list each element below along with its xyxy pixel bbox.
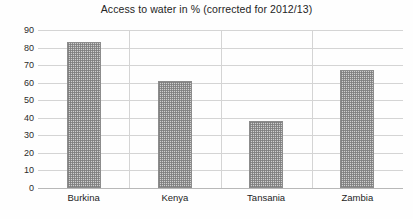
- bar-burkina: [67, 42, 101, 188]
- y-axis-tick-label: 90: [0, 26, 34, 35]
- y-axis-tick-label: 30: [0, 131, 34, 140]
- y-axis-tick-label: 80: [0, 43, 34, 52]
- bar-tansania: [249, 121, 283, 188]
- axis-baseline: [38, 188, 403, 189]
- category-separator: [312, 30, 313, 188]
- x-axis-tick-label: Tansania: [247, 193, 285, 203]
- plot-area: [38, 30, 403, 188]
- y-axis: 9080706050403020100: [0, 30, 34, 188]
- y-axis-tick-label: 20: [0, 148, 34, 157]
- y-axis-tick-label: 70: [0, 61, 34, 70]
- bar-zambia: [340, 70, 374, 188]
- chart-title: Access to water in % (corrected for 2012…: [0, 3, 413, 15]
- y-axis-tick-label: 50: [0, 96, 34, 105]
- y-axis-tick-label: 0: [0, 184, 34, 193]
- y-axis-tick-label: 60: [0, 78, 34, 87]
- x-axis: BurkinaKenyaTansaniaZambia: [38, 193, 403, 213]
- y-axis-tick-label: 10: [0, 166, 34, 175]
- x-axis-tick-label: Kenya: [161, 193, 188, 203]
- category-separator: [129, 30, 130, 188]
- bar-kenya: [158, 81, 192, 188]
- y-axis-tick-label: 40: [0, 113, 34, 122]
- x-axis-tick-label: Zambia: [342, 193, 374, 203]
- x-axis-tick-label: Burkina: [68, 193, 100, 203]
- bar-chart: Access to water in % (corrected for 2012…: [0, 0, 413, 219]
- category-separator: [221, 30, 222, 188]
